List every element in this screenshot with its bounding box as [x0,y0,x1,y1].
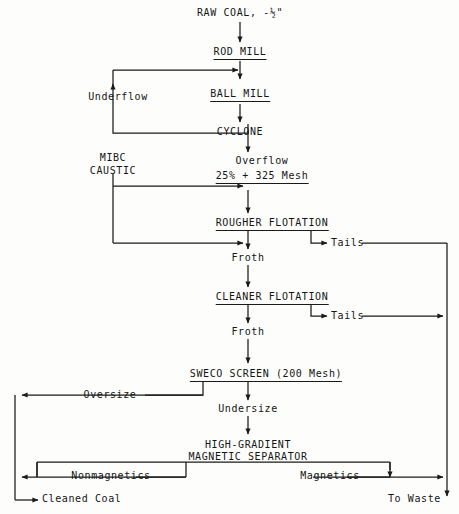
stream-oversize: Oversize [84,390,137,401]
stream-overflow-spec: 25% + 325 Mesh [216,171,309,184]
reagent-caustic: CAUSTIC [90,166,136,177]
stream-rougher-tails: Tails [331,238,364,249]
node-rougher-flotation: ROUGHER FLOTATION [216,218,329,231]
product-cleaned-coal: Cleaned Coal [42,494,121,505]
node-cyclone: CYCLONE [217,127,263,138]
stream-cleaner-froth: Froth [231,327,264,338]
product-to-waste: To Waste [388,494,441,505]
flowsheet-diagram: RAW COAL, -½" ROD MILL BALL MILL CYCLONE… [0,0,459,514]
node-rod-mill: ROD MILL [214,47,267,60]
flow-connector-lines [0,0,459,514]
node-ball-mill: BALL MILL [210,89,270,102]
node-cleaner-flotation: CLEANER FLOTATION [216,292,329,305]
reagent-mibc: MIBC [100,153,126,164]
stream-cleaner-tails: Tails [331,311,364,322]
node-raw-coal-feed: RAW COAL, -½" [197,8,283,19]
node-sweco-screen: SWECO SCREEN (200 Mesh) [190,369,342,382]
node-magnetic-separator-line2: MAGNETIC SEPARATOR [188,452,307,463]
node-magnetic-separator-line1: HIGH-GRADIENT [205,440,291,451]
stream-rougher-froth: Froth [231,253,264,264]
stream-underflow: Underflow [88,92,148,103]
stream-magnetics: Magnetics [300,471,360,482]
stream-overflow: Overflow [236,156,289,167]
stream-nonmagnetics: Nonmagnetics [71,471,150,482]
stream-undersize: Undersize [218,404,278,415]
